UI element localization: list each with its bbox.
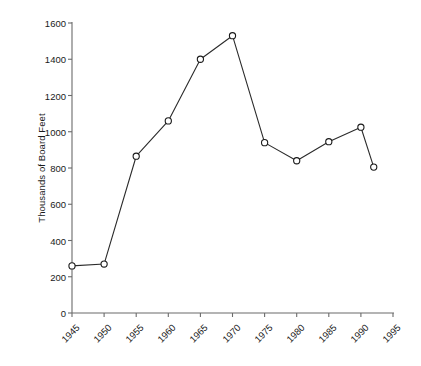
data-point-marker — [371, 164, 377, 170]
series-line — [72, 36, 374, 266]
data-point-marker — [294, 158, 300, 164]
y-tick-label: 1200 — [28, 90, 66, 101]
data-point-marker — [133, 153, 139, 159]
y-tick-label: 0 — [28, 308, 66, 319]
data-point-marker — [358, 124, 364, 130]
data-point-marker — [197, 56, 203, 62]
data-point-marker — [165, 118, 171, 124]
data-point-marker — [101, 261, 107, 267]
y-tick-label: 200 — [28, 271, 66, 282]
data-point-marker — [229, 33, 235, 39]
y-tick-label: 400 — [28, 235, 66, 246]
line-chart: Thousands of Board Feet 0200400600800100… — [0, 0, 421, 366]
y-tick-label: 800 — [28, 163, 66, 174]
y-tick-label: 1400 — [28, 54, 66, 65]
data-point-marker — [262, 140, 268, 146]
data-point-marker — [69, 263, 75, 269]
data-point-marker — [326, 139, 332, 145]
y-tick-label: 1600 — [28, 18, 66, 29]
y-tick-label: 1000 — [28, 126, 66, 137]
y-tick-label: 600 — [28, 199, 66, 210]
